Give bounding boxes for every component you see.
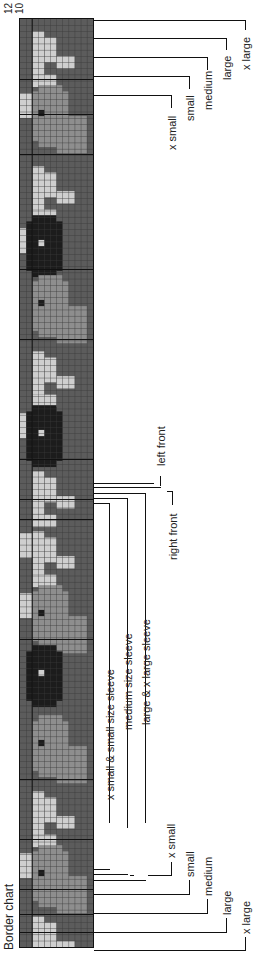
label-top-small: small <box>184 95 196 121</box>
label-top-medium: medium <box>202 71 214 110</box>
chart-title: Border chart <box>2 884 16 950</box>
label-top-x-large: x large <box>240 37 252 70</box>
label-top-large: large <box>221 56 233 80</box>
label-bottom-medium: medium <box>202 857 214 896</box>
label-bottom-large: large <box>221 891 233 915</box>
label-bottom-x-small: x small <box>165 824 177 858</box>
label-sleeve-xs-s: x small & small size sleeve <box>104 669 116 800</box>
label-right-front: right front <box>167 514 179 560</box>
row-number-10: 10 <box>14 3 25 14</box>
label-bottom-small: small <box>184 851 196 877</box>
row-number-12: 12 <box>3 3 14 14</box>
label-left-front: left front <box>155 426 167 466</box>
label-bottom-x-large: x large <box>240 901 252 934</box>
label-sleeve-m: medium size sleeve <box>122 633 134 730</box>
label-top-x-small: x small <box>166 116 178 150</box>
border-chart-grid <box>19 18 94 948</box>
chart-cells <box>20 19 93 947</box>
label-sleeve-l-xl: large & x large sleeve <box>140 619 152 725</box>
